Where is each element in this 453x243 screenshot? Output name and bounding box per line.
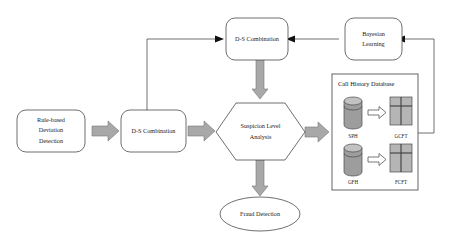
arrowhead-icon: [215, 36, 224, 43]
node-bayesian-learning[interactable]: Bayesian Learning: [345, 18, 402, 60]
node-fraud-detection[interactable]: Fraud Detection: [220, 197, 300, 231]
block-arrow-icon: [252, 58, 268, 99]
node-label-line2: Deviation: [39, 126, 63, 133]
node-ds-combination-upper[interactable]: D-S Combination: [226, 18, 288, 60]
block-arrow-icon: [92, 121, 119, 141]
connector-ds-lower-to-ds-upper: [147, 36, 224, 113]
block-arrow-ds-to-suspicion: [188, 121, 215, 141]
block-arrow-suspicion-to-fraud: [252, 160, 268, 196]
cylinder-top: [344, 97, 362, 105]
database-store-label: SPH: [348, 133, 358, 139]
node-label-line1: Bayesian: [362, 30, 385, 37]
database-store-label: GFH: [348, 179, 359, 185]
database-cylinder-icon: [344, 97, 362, 129]
cylinder-top: [344, 144, 362, 152]
node-label-line3: Detection: [39, 137, 63, 144]
node-label-line1: Rule-based: [37, 116, 66, 123]
node-label-line2: Analysis: [250, 133, 272, 140]
connector-bayesian-to-ds-upper: [286, 36, 339, 43]
database-table-label: GCFT: [394, 133, 408, 139]
node-shape[interactable]: [345, 18, 402, 60]
block-arrow-suspicion-to-database: [305, 122, 329, 142]
panel-call-history-database[interactable]: Call History Database SPH GCF: [332, 74, 418, 190]
node-label: D-S Combination: [235, 35, 279, 42]
grid-table-icon: [390, 144, 412, 172]
node-label-line1: Suspicion Level: [240, 122, 280, 129]
grid-table-icon: [390, 97, 412, 125]
panel-title: Call History Database: [338, 80, 395, 87]
node-label: D-S Combination: [132, 127, 176, 134]
diagram-canvas: Rule-based Deviation Detection D-S Combi…: [0, 0, 453, 243]
node-label: Fraud Detection: [240, 210, 280, 217]
node-rule-based-deviation-detection[interactable]: Rule-based Deviation Detection: [17, 110, 85, 152]
block-arrow-icon: [252, 160, 268, 196]
node-ds-combination-lower[interactable]: D-S Combination: [121, 110, 186, 152]
block-arrow-ds-upper-to-suspicion: [252, 58, 268, 99]
block-arrow-icon: [305, 122, 329, 142]
flow-diagram: Rule-based Deviation Detection D-S Combi…: [0, 0, 453, 243]
database-table-label: FCFT: [395, 179, 408, 185]
block-arrow-icon: [188, 121, 215, 141]
block-arrow-rule-to-ds: [92, 121, 119, 141]
connector-line: [147, 39, 216, 112]
node-shape[interactable]: [216, 103, 305, 160]
node-suspicion-level-analysis[interactable]: Suspicion Level Analysis: [216, 103, 305, 160]
database-cylinder-icon: [344, 144, 362, 176]
node-label-line2: Learning: [362, 40, 384, 47]
